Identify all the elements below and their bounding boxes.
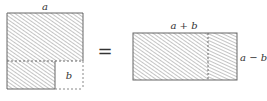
left-figure: a b	[7, 1, 83, 89]
hatched-rotated-piece	[208, 33, 237, 80]
label-a-minus-b: a − b	[240, 52, 267, 63]
difference-of-squares-diagram: a b = a + b a − b	[0, 0, 267, 101]
label-a: a	[42, 1, 48, 12]
label-b: b	[66, 70, 72, 81]
diagram-canvas: a b = a + b a − b	[0, 0, 267, 101]
right-figure: a + b a − b	[133, 20, 267, 80]
hatched-main	[133, 33, 208, 80]
label-a-plus-b: a + b	[170, 20, 197, 31]
equals-sign: =	[97, 41, 112, 62]
